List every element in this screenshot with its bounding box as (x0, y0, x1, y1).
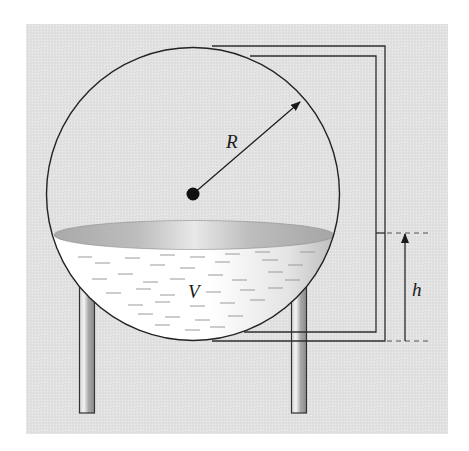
liquid-surface (54, 221, 334, 250)
radius-label: R (225, 131, 238, 152)
center-point (187, 188, 200, 201)
height-label: h (412, 279, 422, 300)
tank-diagram: R V h (0, 0, 469, 451)
